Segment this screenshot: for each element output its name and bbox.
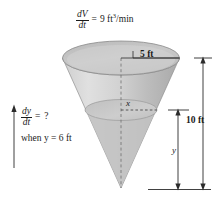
- dV-dt-fraction: dV dt: [76, 10, 89, 30]
- dt-denominator-2: dt: [21, 118, 32, 128]
- top-radius-label: 5 ft: [140, 50, 153, 60]
- cone-diagram-svg: [0, 0, 218, 209]
- dt-denominator: dt: [76, 21, 89, 31]
- inflow-rate-label: dV dt =9 ft3/min: [76, 10, 134, 30]
- water-depth-label: y: [172, 146, 176, 155]
- dimension-arrow-dy-dt: [11, 105, 16, 169]
- inflow-per-unit: /min: [116, 14, 133, 24]
- condition-label: when y = 6 ft: [21, 134, 72, 144]
- dy-dt-fraction: dy dt: [21, 107, 32, 127]
- total-height-label: 10 ft: [186, 116, 204, 126]
- unknown-value: ?: [40, 111, 48, 121]
- water-radius-label: x: [126, 99, 130, 108]
- related-rates-cone-figure: dV dt =9 ft3/min dy dt =? when y = 6 ft …: [0, 0, 218, 209]
- inflow-value: 9 ft: [97, 14, 113, 24]
- dimension-arrow-y: [175, 109, 180, 191]
- inflow-rate-expression: =9 ft3/min: [89, 15, 134, 25]
- unknown-rate-label: dy dt =?: [21, 107, 49, 127]
- unknown-rate-expression: =?: [32, 112, 49, 122]
